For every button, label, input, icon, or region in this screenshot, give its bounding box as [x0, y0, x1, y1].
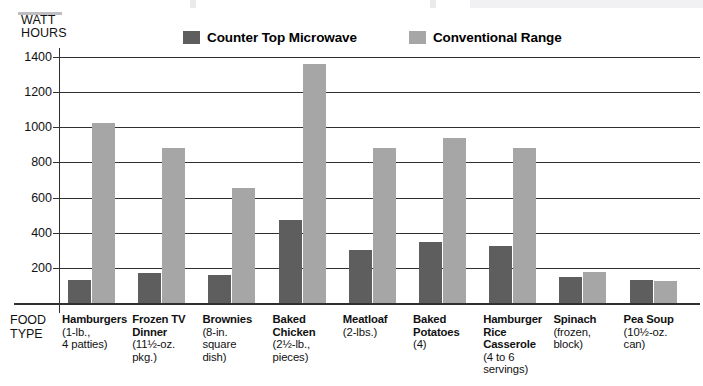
bar-conventional	[583, 272, 606, 303]
category-label: Baked Potatoes(4)	[413, 313, 480, 351]
bar-microwave	[489, 246, 512, 303]
category-name: Hamburger Rice Casserole	[483, 313, 550, 351]
y-tick-label-400: 400	[31, 226, 52, 240]
category-name: Frozen TV Dinner	[132, 313, 199, 338]
category-description-line: (8-in.	[202, 326, 269, 339]
chart-legend: Counter Top MicrowaveConventional Range	[183, 29, 562, 45]
bar-microwave	[559, 277, 582, 303]
food-type-label-line1: FOOD	[10, 314, 46, 328]
category-label-row: FOOD TYPE Hamburgers(1-lb.,4 patties)Fro…	[0, 306, 703, 386]
category-name: Hamburgers	[62, 313, 129, 326]
category-description-line: (frozen,	[553, 326, 620, 339]
y-tick-label-1000: 1000	[24, 120, 52, 134]
category-description-line: (4 to 6	[483, 351, 550, 364]
y-tick-mark-800	[53, 162, 60, 163]
category-description-line: square	[202, 338, 269, 351]
y-tick-mark-400	[53, 233, 60, 234]
category-name: Baked Chicken	[273, 313, 340, 338]
category-label: Meatloaf(2-lbs.)	[343, 313, 410, 338]
legend-label-microwave: Counter Top Microwave	[207, 30, 357, 45]
bar-conventional	[232, 188, 255, 303]
scan-artifact-top	[0, 0, 703, 8]
bar-conventional	[513, 148, 536, 303]
category-description-line: dish)	[202, 351, 269, 364]
category-description-line: block)	[553, 338, 620, 351]
y-tick-mark-1200	[53, 92, 60, 93]
bar-conventional	[162, 148, 185, 304]
y-tick-mark-600	[53, 198, 60, 199]
category-description-line: (2-lbs.)	[343, 326, 410, 339]
bar-group	[559, 57, 606, 303]
category-description-line: pieces)	[273, 351, 340, 364]
y-axis-caption-line2: HOURS	[21, 27, 67, 40]
bar-microwave	[138, 273, 161, 303]
category-description-line: 4 patties)	[62, 338, 129, 351]
category-name: Meatloaf	[343, 313, 410, 326]
legend-swatch-conventional	[409, 31, 426, 44]
plot-area	[60, 57, 700, 303]
category-description-line: (11½-oz.	[132, 338, 199, 351]
bar-group	[279, 57, 326, 303]
legend-swatch-microwave	[183, 31, 200, 44]
category-description-line: pkg.)	[132, 351, 199, 364]
category-description-line: (10½-oz.	[624, 326, 691, 339]
y-tick-label-800: 800	[31, 155, 52, 169]
category-description-line: (1-lb.,	[62, 326, 129, 339]
bar-group	[208, 57, 255, 303]
bar-group	[630, 57, 677, 303]
bar-microwave	[419, 242, 442, 304]
legend-item-microwave: Counter Top Microwave	[183, 30, 357, 45]
legend-label-conventional: Conventional Range	[433, 30, 562, 45]
category-label: Frozen TV Dinner(11½-oz.pkg.)	[132, 313, 199, 363]
y-tick-mark-1000	[53, 127, 60, 128]
category-label: Pea Soup(10½-oz.can)	[624, 313, 691, 351]
bar-group	[349, 57, 396, 303]
category-label: Baked Chicken(2½-lb.,pieces)	[273, 313, 340, 363]
bar-microwave	[208, 275, 231, 303]
category-name: Baked Potatoes	[413, 313, 480, 338]
y-tick-label-600: 600	[31, 191, 52, 205]
food-type-label: FOOD TYPE	[10, 314, 46, 341]
y-tick-mark-200	[53, 268, 60, 269]
bar-group	[419, 57, 466, 303]
y-tick-label-1200: 1200	[24, 85, 52, 99]
bar-group	[138, 57, 185, 303]
chart-page: WATT HOURS Counter Top MicrowaveConventi…	[0, 0, 703, 386]
category-description-line: (4)	[413, 338, 480, 351]
bar-conventional	[92, 123, 115, 303]
food-type-label-line2: TYPE	[10, 328, 46, 342]
category-name: Spinach	[553, 313, 620, 326]
category-name: Pea Soup	[624, 313, 691, 326]
x-axis-baseline	[14, 303, 700, 305]
y-axis-labels: 140012001000800600400200	[12, 57, 52, 303]
bar-conventional	[373, 148, 396, 304]
category-label: Spinach(frozen,block)	[553, 313, 620, 351]
category-description-line: can)	[624, 338, 691, 351]
bar-microwave	[349, 250, 372, 303]
category-name: Brownies	[202, 313, 269, 326]
category-description-line: (2½-lb.,	[273, 338, 340, 351]
y-tick-mark-1400	[53, 57, 60, 58]
bar-conventional	[303, 64, 326, 303]
bar-group	[68, 57, 115, 303]
bar-conventional	[654, 281, 677, 303]
bar-group	[489, 57, 536, 303]
bar-microwave	[279, 220, 302, 303]
y-tick-label-200: 200	[31, 261, 52, 275]
category-label: Brownies(8-in.squaredish)	[202, 313, 269, 363]
bar-microwave	[68, 280, 91, 303]
bar-microwave	[630, 280, 653, 303]
category-label: Hamburgers(1-lb.,4 patties)	[62, 313, 129, 351]
legend-item-conventional: Conventional Range	[409, 30, 562, 45]
bar-conventional	[443, 138, 466, 303]
category-label: Hamburger Rice Casserole(4 to 6servings)	[483, 313, 550, 376]
y-tick-label-1400: 1400	[24, 50, 52, 64]
category-description-line: servings)	[483, 363, 550, 376]
y-axis-caption: WATT HOURS	[21, 14, 67, 40]
